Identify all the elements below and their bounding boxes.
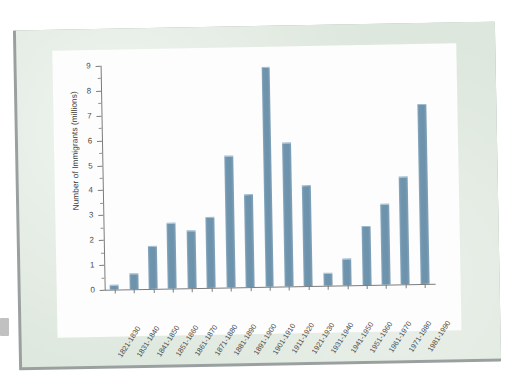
bar bbox=[186, 230, 196, 288]
bar bbox=[323, 272, 332, 286]
y-axis-tick-label: 7 bbox=[87, 111, 92, 120]
y-axis-tick bbox=[100, 290, 105, 291]
y-axis-minor-tick bbox=[98, 78, 101, 79]
x-axis-tick bbox=[406, 284, 407, 288]
x-axis-tick bbox=[134, 289, 135, 293]
y-axis-tick bbox=[96, 66, 101, 67]
y-axis-tick-label: 9 bbox=[86, 62, 91, 71]
x-axis-tick bbox=[173, 289, 174, 293]
x-axis-tick bbox=[192, 288, 193, 292]
plot-area: 01234567891821-18301831-18401841-1850185… bbox=[101, 60, 435, 290]
bar bbox=[167, 223, 177, 289]
bar bbox=[261, 67, 274, 287]
y-axis-tick-label: 1 bbox=[90, 261, 95, 270]
x-axis-tick bbox=[328, 286, 329, 290]
y-axis-minor-tick bbox=[99, 153, 102, 154]
y-axis-tick bbox=[97, 140, 102, 141]
scanned-slide-canvas: Number of Immigrants (millions) 01234567… bbox=[0, 0, 517, 390]
x-axis-tick bbox=[289, 286, 290, 290]
bar bbox=[129, 273, 138, 289]
bar bbox=[380, 204, 390, 285]
bar bbox=[282, 142, 294, 286]
x-axis-tick bbox=[211, 288, 212, 292]
x-axis-tick bbox=[114, 290, 115, 294]
y-axis-minor-tick bbox=[101, 277, 104, 278]
y-axis-minor-tick bbox=[99, 128, 102, 129]
bar-chart-figure: Number of Immigrants (millions) 01234567… bbox=[52, 43, 461, 337]
y-axis-minor-tick bbox=[101, 228, 104, 229]
x-axis-tick bbox=[250, 287, 251, 291]
y-axis-tick-label: 0 bbox=[90, 285, 95, 294]
y-axis-tick bbox=[98, 190, 103, 191]
y-axis-tick-label: 5 bbox=[88, 161, 93, 170]
y-axis-minor-tick bbox=[101, 252, 104, 253]
bar bbox=[224, 156, 235, 288]
bar bbox=[148, 246, 158, 289]
x-axis-tick bbox=[367, 285, 368, 289]
x-axis-tick bbox=[270, 287, 271, 291]
bar bbox=[399, 176, 410, 284]
slide-background-mat: Number of Immigrants (millions) 01234567… bbox=[16, 22, 501, 368]
y-axis-title: Number of Immigrants (millions) bbox=[69, 56, 81, 246]
y-axis-tick-label: 6 bbox=[88, 136, 93, 145]
x-axis-tick bbox=[153, 289, 154, 293]
bar bbox=[417, 104, 429, 284]
y-axis-tick bbox=[97, 165, 102, 166]
x-axis-tick bbox=[425, 284, 426, 288]
y-axis-tick bbox=[96, 91, 101, 92]
chart-card: Number of Immigrants (millions) 01234567… bbox=[52, 43, 461, 337]
bar bbox=[342, 258, 351, 285]
y-axis-tick-label: 8 bbox=[87, 86, 92, 95]
y-axis-minor-tick bbox=[100, 203, 103, 204]
y-axis-tick bbox=[99, 240, 104, 241]
x-axis-tick bbox=[386, 285, 387, 289]
page-edge-artifact bbox=[0, 318, 9, 336]
bar bbox=[206, 217, 216, 288]
x-axis-tick bbox=[308, 286, 309, 290]
x-axis-tick bbox=[347, 285, 348, 289]
y-axis-tick bbox=[97, 116, 102, 117]
y-axis-minor-tick bbox=[98, 103, 101, 104]
y-axis-tick-label: 4 bbox=[88, 186, 93, 195]
bar bbox=[244, 194, 255, 287]
y-axis-tick bbox=[98, 215, 103, 216]
slide-rotation-wrapper: Number of Immigrants (millions) 01234567… bbox=[13, 22, 501, 371]
y-axis-tick bbox=[99, 265, 104, 266]
bar bbox=[361, 225, 371, 285]
y-axis-minor-tick bbox=[100, 178, 103, 179]
y-axis-tick-label: 3 bbox=[89, 211, 94, 220]
y-axis-tick-label: 2 bbox=[89, 236, 94, 245]
bar bbox=[302, 185, 313, 286]
x-axis-tick bbox=[231, 287, 232, 291]
